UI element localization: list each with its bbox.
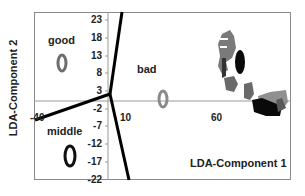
y-tick: -2 xyxy=(72,104,102,114)
x-tick: 10 xyxy=(120,113,131,123)
y-tick: -22 xyxy=(72,175,102,185)
y-tick: -12 xyxy=(72,139,102,149)
region-label-bad: bad xyxy=(137,63,157,75)
cluster-grey-mid xyxy=(224,76,254,100)
y-tick: 8 xyxy=(72,68,102,78)
cluster-dark-strip xyxy=(222,58,226,78)
bad-marker xyxy=(159,91,167,107)
region-label-good: good xyxy=(48,34,75,46)
good-marker xyxy=(58,55,66,71)
y-tick: 23 xyxy=(72,15,102,25)
cluster-black xyxy=(235,50,245,74)
y-axis-label: LDA-Component 2 xyxy=(7,33,19,143)
y-tick: -17 xyxy=(72,157,102,167)
x-tick: -40 xyxy=(30,113,44,123)
x-tick: 60 xyxy=(211,113,222,123)
x-axis-label: LDA-Component 1 xyxy=(190,157,287,169)
cluster-bottom xyxy=(252,90,288,116)
y-tick: 13 xyxy=(72,51,102,61)
region-label-middle: middle xyxy=(47,125,82,137)
y-tick: 18 xyxy=(72,33,102,43)
cluster-grey-upper xyxy=(218,30,236,74)
y-tick: 3 xyxy=(72,86,102,96)
